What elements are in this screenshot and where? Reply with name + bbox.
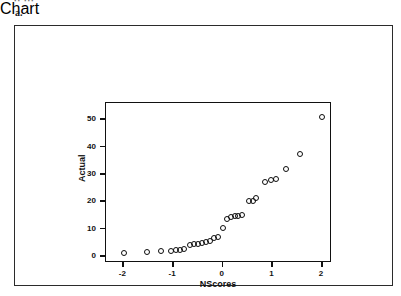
y-tick-mark [100,146,105,148]
x-tick-label: 2 [319,269,323,278]
y-tick-label: 50 [87,114,96,123]
x-tick-mark [172,262,174,267]
y-tick-mark [100,200,105,202]
clipped-text-fragment: ·· ··· [14,0,54,3]
data-point [319,114,325,120]
y-tick-label: 20 [87,196,96,205]
data-point [253,195,259,201]
y-tick-label: 10 [87,223,96,232]
data-point [121,250,127,256]
y-tick-mark [100,255,105,257]
x-tick-label: 0 [219,269,223,278]
y-tick-mark [100,118,105,120]
y-tick-mark [100,228,105,230]
data-point [297,151,303,157]
scatter-series [106,103,330,261]
x-axis-title: NScores [200,279,237,289]
x-tick-mark [321,262,323,267]
data-point [215,234,221,240]
figure-frame: 01020304050 -2-1012 Actual NScores [14,25,393,286]
data-point [239,212,245,218]
x-tick-mark [222,262,224,267]
plot-area [105,102,331,262]
x-tick-label: -1 [168,269,175,278]
data-point [158,248,164,254]
y-tick-label: 30 [87,169,96,178]
x-tick-label: 1 [269,269,273,278]
y-tick-label: 0 [92,251,96,260]
data-point [144,249,150,255]
y-tick-label: 40 [87,141,96,150]
x-tick-label: -2 [119,269,126,278]
data-point [181,246,187,252]
data-point [283,166,289,172]
x-tick-mark [271,262,273,267]
y-axis-title: Actual [77,154,87,182]
x-tick-mark [122,262,124,267]
y-tick-mark [100,173,105,175]
data-point [273,176,279,182]
data-point [220,225,226,231]
figure-part-label: a. [15,7,23,18]
